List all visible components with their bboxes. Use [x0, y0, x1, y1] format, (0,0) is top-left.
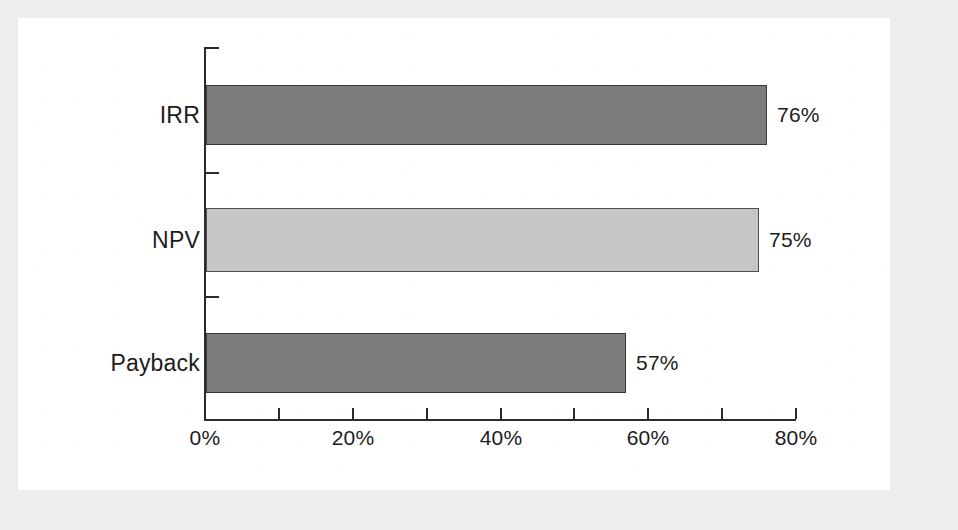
x-axis-tick — [278, 408, 280, 419]
y-axis-tick — [206, 172, 219, 174]
x-axis-label-0: 0% — [190, 426, 221, 450]
x-axis-label-20: 20% — [332, 426, 375, 450]
category-label-irr: IRR — [160, 102, 200, 129]
bar-npv[interactable] — [206, 208, 759, 272]
bar-payback[interactable] — [206, 333, 626, 393]
x-axis-label-80: 80% — [775, 426, 818, 450]
category-label-payback: Payback — [110, 350, 200, 377]
bar-chart-plot-area: 0% 20% 40% 60% 80% IRR NPV Payback 76% 7… — [0, 0, 958, 530]
x-axis-tick — [795, 408, 797, 419]
x-axis-tick — [500, 408, 502, 419]
y-axis-tick — [206, 47, 219, 49]
x-axis-tick — [204, 408, 206, 419]
bar-irr[interactable] — [206, 85, 767, 145]
bar-value-payback: 57% — [636, 351, 679, 375]
x-axis-line — [204, 419, 796, 421]
x-axis-tick — [352, 408, 354, 419]
x-axis-tick — [647, 408, 649, 419]
bar-value-irr: 76% — [777, 103, 820, 127]
bar-value-npv: 75% — [769, 228, 812, 252]
x-axis-label-40: 40% — [480, 426, 523, 450]
y-axis-tick — [206, 296, 219, 298]
x-axis-tick — [573, 408, 575, 419]
x-axis-tick — [721, 408, 723, 419]
category-label-npv: NPV — [152, 227, 200, 254]
chart-page: 0% 20% 40% 60% 80% IRR NPV Payback 76% 7… — [0, 0, 958, 530]
x-axis-tick — [426, 408, 428, 419]
x-axis-label-60: 60% — [627, 426, 670, 450]
